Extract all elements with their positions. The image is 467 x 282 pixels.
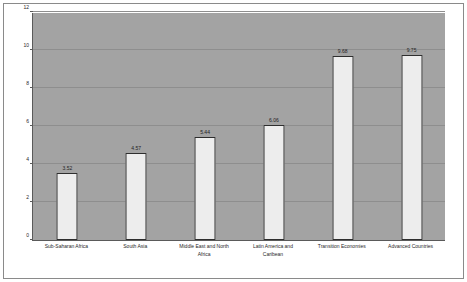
- bar[interactable]: [126, 153, 147, 240]
- bar[interactable]: [263, 125, 284, 240]
- x-label-line: Transition Economies: [307, 243, 376, 251]
- y-tick-label-6: 6: [26, 119, 29, 124]
- x-axis-category-label: Advanced Countries: [376, 243, 445, 251]
- x-axis-category-label: South Asia: [101, 243, 170, 251]
- bar[interactable]: [332, 56, 353, 240]
- y-tick-mark-12: [30, 11, 33, 12]
- bar-group: 9.75: [377, 13, 446, 240]
- bar[interactable]: [195, 137, 216, 240]
- bar-group: 5.44: [171, 13, 240, 240]
- x-label-line: Africa: [170, 251, 239, 259]
- y-tick-label-0: 0: [26, 233, 29, 238]
- bar-group: 6.06: [240, 13, 309, 240]
- bars-layer: 3.524.575.446.069.689.75: [33, 13, 445, 240]
- bar-value-label: 3.52: [63, 166, 73, 171]
- x-label-line: Latin America and: [239, 243, 308, 251]
- x-label-line: Sub-Saharan Africa: [32, 243, 101, 251]
- x-axis-labels: Sub-Saharan AfricaSouth AsiaMiddle East …: [32, 243, 445, 277]
- x-label-line: South Asia: [101, 243, 170, 251]
- x-axis-category-label: Middle East and NorthAfrica: [170, 243, 239, 259]
- bar[interactable]: [401, 55, 422, 240]
- y-tick-label-8: 8: [26, 81, 29, 86]
- bar-value-label: 6.06: [269, 118, 279, 123]
- bar-value-label: 4.57: [131, 146, 141, 151]
- bar-value-label: 5.44: [200, 130, 210, 135]
- x-label-line: Advanced Countries: [376, 243, 445, 251]
- y-tick-label-2: 2: [26, 195, 29, 200]
- bar-value-label: 9.75: [407, 48, 417, 53]
- plot-area: 024681012 3.524.575.446.069.689.75: [32, 13, 445, 241]
- gridline-12: [33, 11, 445, 12]
- x-label-line: Caribean: [239, 251, 308, 259]
- bar[interactable]: [57, 173, 78, 240]
- y-tick-label-12: 12: [23, 5, 29, 10]
- bar-group: 9.68: [308, 13, 377, 240]
- bar-chart: 024681012 3.524.575.446.069.689.75 Sub-S…: [0, 0, 467, 282]
- y-tick-label-10: 10: [23, 43, 29, 48]
- bar-value-label: 9.68: [338, 49, 348, 54]
- bar-group: 4.57: [102, 13, 171, 240]
- x-axis-category-label: Latin America andCaribean: [239, 243, 308, 259]
- x-axis-category-label: Sub-Saharan Africa: [32, 243, 101, 251]
- x-label-line: Middle East and North: [170, 243, 239, 251]
- y-tick-label-4: 4: [26, 157, 29, 162]
- bar-group: 3.52: [33, 13, 102, 240]
- x-axis-category-label: Transition Economies: [307, 243, 376, 251]
